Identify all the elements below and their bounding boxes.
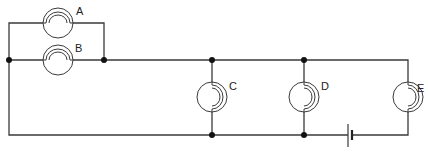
junction-dot: [301, 132, 307, 138]
bulb-a-icon: A: [43, 5, 84, 38]
junction-dot: [209, 132, 215, 138]
junction-dot: [101, 57, 107, 63]
bulb-c-label: C: [229, 80, 237, 92]
junction-dot: [6, 57, 12, 63]
junction-dot: [209, 57, 215, 63]
bulb-b-icon: B: [43, 42, 82, 75]
junction-dot: [301, 57, 307, 63]
bulb-a-label: A: [76, 5, 84, 17]
wire-bottom-right: [352, 112, 408, 135]
bulb-b-label: B: [75, 42, 82, 54]
wires: [9, 23, 408, 135]
battery-icon: [348, 124, 352, 147]
bulb-d-icon: D: [289, 80, 329, 112]
bulb-c-icon: C: [197, 80, 237, 112]
bulb-e-icon: E: [393, 82, 424, 112]
bulb-e-label: E: [417, 82, 424, 94]
circuit-diagram: A B C D E: [0, 0, 428, 153]
bulb-d-label: D: [321, 80, 329, 92]
